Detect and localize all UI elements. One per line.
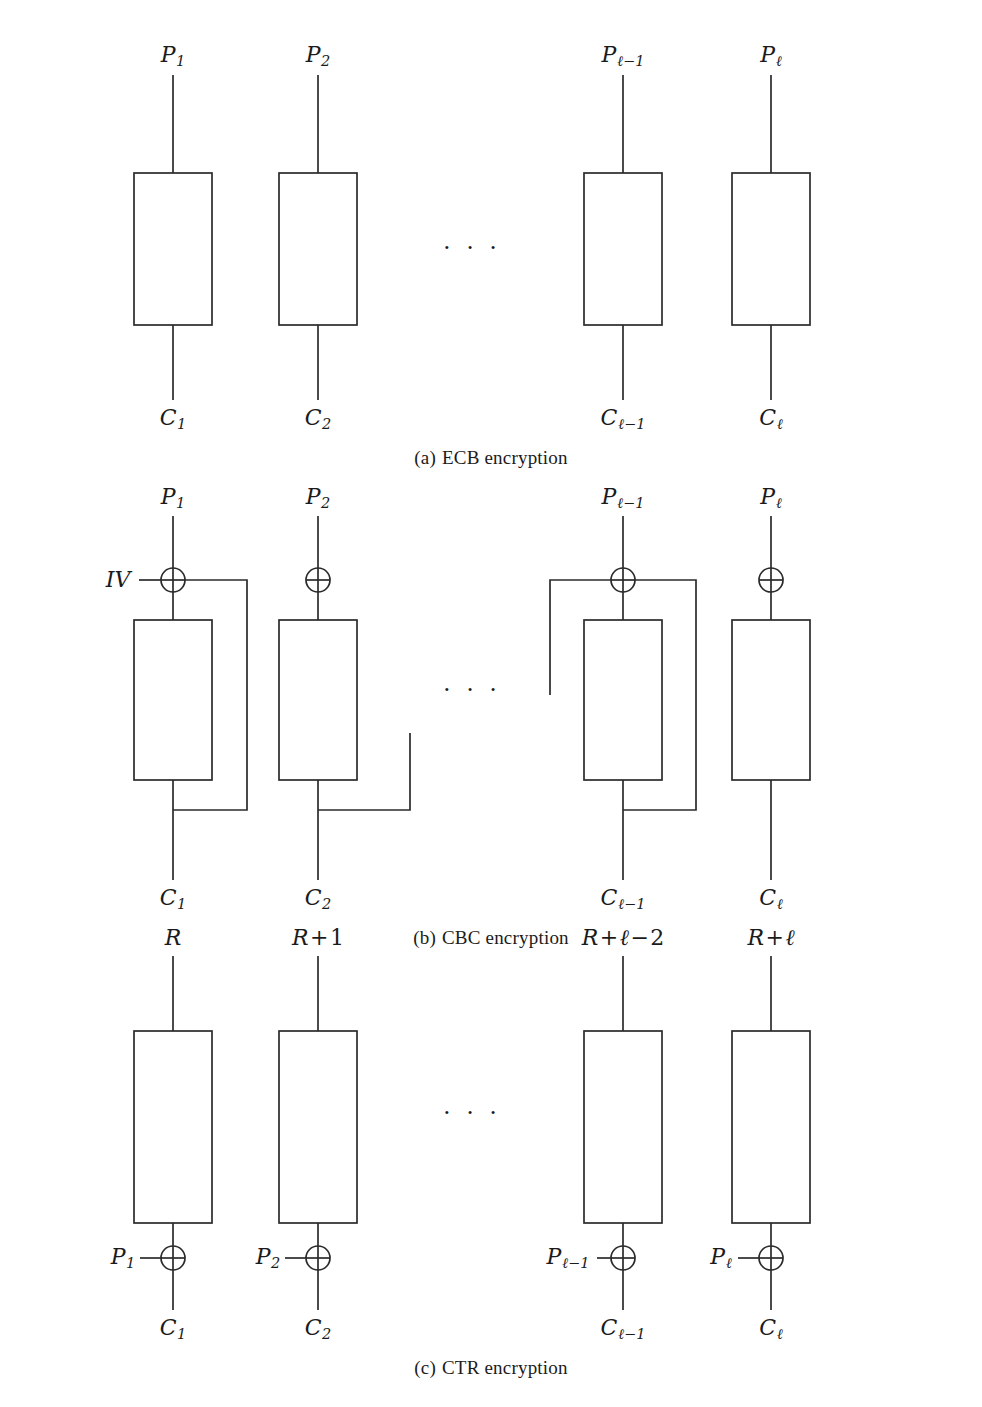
ctr-cipher-block-3 (584, 1031, 662, 1223)
cbc-bottom-label-2: C2 (305, 887, 332, 912)
ctr-bottom-label-2: C2 (305, 1317, 332, 1342)
ecb-diagram-canvas (0, 0, 982, 445)
ctr-caption: (c)CTR encryption (0, 1357, 982, 1379)
cbc-bottom-label-3: Cℓ−1 (601, 887, 646, 912)
cbc-cipher-block-2 (279, 620, 357, 780)
figure-block-cipher-modes: · · · P1 P2 Pℓ−1 Pℓ C1 C2 Cℓ−1 Cℓ (a)ECB… (0, 0, 982, 1407)
cbc-bottom-label-4: Cℓ (759, 887, 782, 912)
ctr-cipher-block-4 (732, 1031, 810, 1223)
ctr-plaintext-label-2: P2 (256, 1246, 281, 1271)
ecb-caption-text: ECB encryption (442, 447, 568, 468)
cbc-top-label-4: Pℓ (760, 486, 781, 511)
ctr-caption-text: CTR encryption (442, 1357, 568, 1378)
cbc-top-label-3: Pℓ−1 (602, 486, 645, 511)
ecb-caption: (a)ECB encryption (0, 447, 982, 469)
ctr-plaintext-label-4: Pℓ (710, 1246, 731, 1271)
ecb-bottom-label-4: Cℓ (759, 407, 782, 432)
ctr-top-label-4: R+ℓ (747, 927, 794, 949)
ctr-ellipsis: · · · (443, 1098, 502, 1128)
ecb-top-label-4: Pℓ (760, 44, 781, 69)
ecb-top-label-3: Pℓ−1 (602, 44, 645, 69)
ecb-top-label-1: P1 (161, 44, 186, 69)
ctr-bottom-label-3: Cℓ−1 (601, 1317, 646, 1342)
ecb-cipher-block-1 (134, 173, 212, 325)
ecb-bottom-label-1: C1 (160, 407, 187, 432)
cbc-ellipsis: · · · (443, 675, 502, 705)
ctr-wires-and-blocks (134, 956, 810, 1310)
ctr-plaintext-label-3: Pℓ−1 (547, 1246, 590, 1271)
ctr-plaintext-label-1: P1 (111, 1246, 136, 1271)
cbc-cipher-block-3 (584, 620, 662, 780)
ecb-bottom-label-2: C2 (305, 407, 332, 432)
ctr-bottom-label-1: C1 (160, 1317, 187, 1342)
cbc-cipher-block-4 (732, 620, 810, 780)
ecb-bottom-label-3: Cℓ−1 (601, 407, 646, 432)
panel-cbc-encryption: · · · IV P1 P2 Pℓ−1 Pℓ C1 C2 Cℓ−1 Cℓ (0, 480, 982, 950)
ctr-caption-tag: (c) (414, 1357, 436, 1378)
panel-ctr-encryption: · · · R R+1 R+ℓ−2 R+ℓ P1 P2 Pℓ−1 Pℓ C1 (0, 920, 982, 1390)
ctr-cipher-block-2 (279, 1031, 357, 1223)
ctr-cipher-block-1 (134, 1031, 212, 1223)
ctr-top-label-1: R (165, 927, 182, 949)
cbc-bottom-label-1: C1 (160, 887, 187, 912)
ctr-bottom-label-4: Cℓ (759, 1317, 782, 1342)
cbc-cipher-block-1 (134, 620, 212, 780)
ecb-cipher-block-2 (279, 173, 357, 325)
ecb-caption-tag: (a) (414, 447, 436, 468)
ctr-top-label-2: R+1 (292, 927, 344, 949)
ecb-top-label-2: P2 (306, 44, 331, 69)
ctr-top-label-3: R+ℓ−2 (582, 927, 665, 949)
cbc-iv-label: IV (106, 569, 131, 591)
ctr-diagram-canvas (0, 920, 982, 1365)
cbc-top-label-1: P1 (161, 486, 186, 511)
ecb-cipher-block-4 (732, 173, 810, 325)
ecb-ellipsis: · · · (443, 233, 502, 263)
ecb-cipher-block-3 (584, 173, 662, 325)
panel-ecb-encryption: · · · P1 P2 Pℓ−1 Pℓ C1 C2 Cℓ−1 Cℓ (a)ECB… (0, 0, 982, 470)
cbc-top-label-2: P2 (306, 486, 331, 511)
